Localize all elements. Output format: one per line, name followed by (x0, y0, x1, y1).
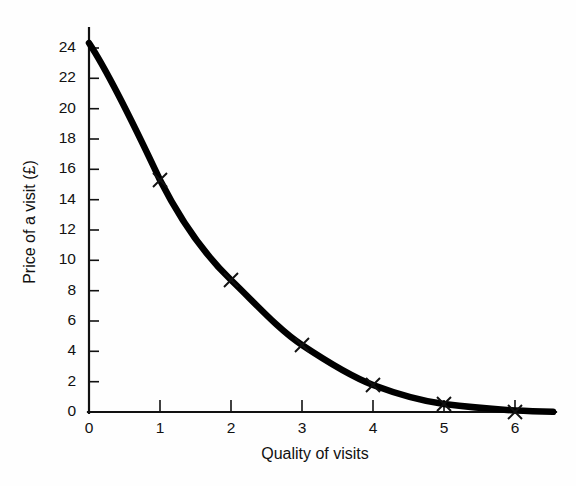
y-tick-label: 4 (67, 341, 76, 358)
y-tick-label: 10 (59, 250, 77, 267)
y-tick-label: 22 (59, 68, 76, 85)
y-axis-title: Price of a visit (£) (21, 160, 38, 284)
y-tick-label: 16 (59, 159, 76, 176)
y-axis-ticks (89, 48, 99, 382)
data-point-markers (153, 173, 522, 419)
y-tick-label: 0 (67, 402, 76, 419)
demand-curve-line (89, 43, 553, 412)
y-tick-label: 14 (59, 190, 77, 207)
y-tick-label: 2 (67, 372, 76, 389)
x-axis-tick-labels: 0 1 2 3 4 5 6 (85, 419, 520, 436)
chart-container: 0 2 4 6 8 10 12 14 16 18 20 22 24 (0, 0, 576, 486)
y-tick-label: 6 (67, 311, 76, 328)
data-point-marker (224, 273, 238, 287)
x-tick-label: 0 (85, 419, 94, 436)
y-tick-label: 12 (59, 220, 76, 237)
demand-curve-chart: 0 2 4 6 8 10 12 14 16 18 20 22 24 (0, 0, 576, 486)
y-tick-label: 24 (59, 38, 77, 55)
y-axis-tick-labels: 0 2 4 6 8 10 12 14 16 18 20 22 24 (59, 38, 77, 419)
x-axis-title: Quality of visits (261, 445, 369, 462)
x-tick-label: 1 (156, 419, 165, 436)
x-tick-label: 3 (298, 419, 307, 436)
y-tick-label: 8 (67, 281, 76, 298)
y-tick-label: 20 (59, 99, 77, 116)
x-tick-label: 5 (440, 419, 449, 436)
y-tick-label: 18 (59, 129, 76, 146)
x-tick-label: 2 (227, 419, 236, 436)
x-tick-label: 6 (511, 419, 520, 436)
x-tick-label: 4 (369, 419, 378, 436)
